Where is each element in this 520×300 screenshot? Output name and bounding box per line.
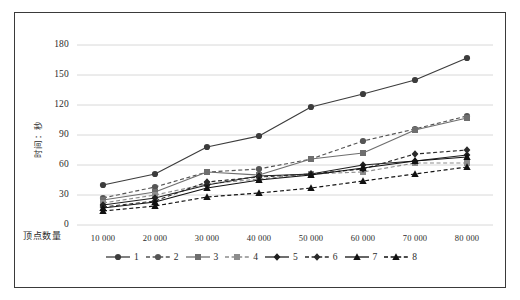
legend-item-1[interactable]: 1 [105,251,139,263]
y-tick-label: 120 [41,99,69,109]
legend-item-7[interactable]: 7 [344,251,378,263]
data-point-marker [308,156,314,162]
data-point-marker [256,166,262,172]
chart-svg [15,13,507,289]
legend-item-4[interactable]: 4 [224,251,258,263]
legend-item-6[interactable]: 6 [304,251,338,263]
data-point-marker [155,254,161,260]
x-tick-label: 20 000 [129,233,181,243]
x-tick-label: 40 000 [233,233,285,243]
data-point-marker [234,254,240,260]
data-point-marker [195,254,201,260]
data-point-marker [313,253,320,261]
legend-label: 7 [372,252,378,262]
legend-item-3[interactable]: 3 [185,251,219,263]
data-point-marker [100,182,106,188]
legend-marker-triangle-icon [344,251,370,263]
y-tick-label: 150 [41,69,69,79]
data-point-marker [360,150,366,156]
legend-item-2[interactable]: 2 [145,251,179,263]
data-point-marker [115,254,121,260]
x-axis-title: 顶点数量 [23,229,61,242]
data-point-marker [274,253,281,261]
chart-frame: 时间：秒 顶点数量 0306090120150180 10 00020 0003… [14,12,506,288]
legend-marker-diamond-icon [264,251,290,263]
data-point-marker [204,169,210,175]
data-point-marker [412,150,419,158]
data-point-marker [464,55,470,61]
x-tick-label: 10 000 [77,233,129,243]
legend-marker-square-icon [224,251,250,263]
data-point-marker [204,144,210,150]
x-tick-label: 50 000 [285,233,337,243]
data-point-marker [360,91,366,97]
legend-marker-diamond-icon [304,251,330,263]
x-tick-label: 80 000 [441,233,493,243]
legend-label: 8 [411,252,417,262]
data-point-marker [412,127,418,133]
legend-label: 5 [292,252,298,262]
legend-label: 3 [213,252,219,262]
legend-marker-circle-icon [105,251,131,263]
legend-label: 4 [252,252,258,262]
legend-item-5[interactable]: 5 [264,251,298,263]
data-point-marker [308,104,314,110]
y-tick-label: 30 [41,189,69,199]
y-tick-label: 180 [41,39,69,49]
legend-marker-square-icon [185,251,211,263]
data-point-marker [152,171,158,177]
x-tick-label: 30 000 [181,233,233,243]
legend-marker-triangle-icon [383,251,409,263]
x-tick-label: 60 000 [337,233,389,243]
legend-label: 1 [133,252,139,262]
chart-plot-area: 时间：秒 顶点数量 0306090120150180 10 00020 0003… [15,13,507,289]
y-tick-label: 0 [41,219,69,229]
data-point-marker [360,138,366,144]
legend-marker-circle-icon [145,251,171,263]
legend-item-8[interactable]: 8 [383,251,417,263]
data-point-marker [464,146,471,154]
data-point-marker [412,77,418,83]
data-point-marker [464,115,470,121]
legend-label: 2 [173,252,179,262]
chart-legend: 12345678 [15,251,507,263]
legend-label: 6 [332,252,338,262]
x-tick-label: 70 000 [389,233,441,243]
y-tick-label: 60 [41,159,69,169]
data-point-marker [256,133,262,139]
y-tick-label: 90 [41,129,69,139]
